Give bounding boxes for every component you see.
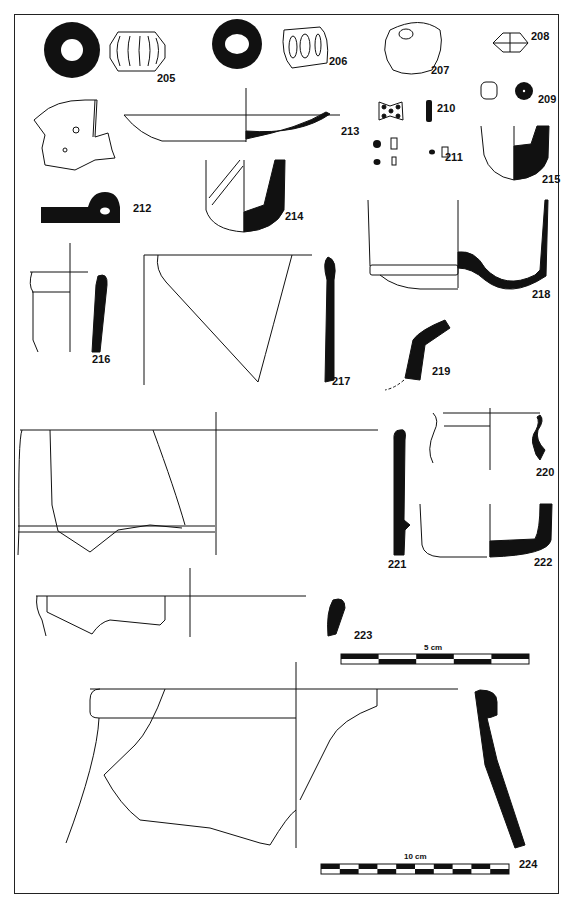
object-212 bbox=[41, 192, 120, 223]
catalog-number-208: 208 bbox=[531, 30, 549, 42]
object-fragment bbox=[34, 100, 115, 170]
catalog-number-224: 224 bbox=[519, 858, 537, 870]
object-210 bbox=[379, 100, 432, 122]
object-206 bbox=[212, 19, 328, 69]
object-213 bbox=[124, 88, 340, 142]
object-219 bbox=[385, 320, 450, 390]
object-221-profile bbox=[18, 412, 410, 555]
object-205 bbox=[44, 22, 165, 78]
object-211 bbox=[373, 138, 448, 165]
catalog-number-215: 215 bbox=[542, 173, 560, 185]
scale-bar-5cm bbox=[341, 654, 529, 664]
catalog-number-207: 207 bbox=[431, 64, 449, 76]
catalog-number-222: 222 bbox=[534, 556, 552, 568]
object-222 bbox=[420, 504, 552, 557]
catalog-number-205: 205 bbox=[157, 72, 175, 84]
object-224 bbox=[66, 662, 525, 848]
catalog-number-212: 212 bbox=[133, 202, 151, 214]
catalog-number-210: 210 bbox=[437, 102, 455, 114]
catalog-number-221: 221 bbox=[388, 558, 406, 570]
catalog-number-214: 214 bbox=[285, 210, 303, 222]
scale-label-5cm: 5 cm bbox=[424, 643, 442, 652]
catalog-number-217: 217 bbox=[332, 375, 350, 387]
object-214 bbox=[206, 160, 285, 232]
object-217 bbox=[144, 255, 335, 385]
object-208 bbox=[493, 33, 528, 52]
scale-bar-10cm bbox=[321, 864, 509, 874]
catalog-number-219: 219 bbox=[432, 365, 450, 377]
catalog-number-206: 206 bbox=[329, 55, 347, 67]
object-220 bbox=[430, 408, 545, 470]
object-218 bbox=[368, 200, 548, 289]
catalog-number-213: 213 bbox=[341, 125, 359, 137]
catalog-number-209: 209 bbox=[538, 93, 556, 105]
catalog-number-211: 211 bbox=[445, 151, 463, 163]
scale-label-10cm: 10 cm bbox=[404, 852, 427, 861]
archaeological-drawings bbox=[0, 0, 574, 905]
object-223 bbox=[36, 568, 345, 637]
catalog-number-220: 220 bbox=[536, 466, 554, 478]
object-215 bbox=[481, 126, 549, 180]
catalog-number-223: 223 bbox=[354, 629, 372, 641]
object-209 bbox=[481, 82, 533, 100]
catalog-number-216: 216 bbox=[92, 353, 110, 365]
object-216 bbox=[30, 243, 107, 352]
catalog-number-218: 218 bbox=[532, 288, 550, 300]
